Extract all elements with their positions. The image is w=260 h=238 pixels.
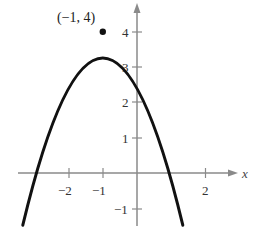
x-axis: x <box>18 166 248 181</box>
y-tick-label: 2 <box>122 95 129 110</box>
y-tick-labels: −1 1 2 3 4 <box>114 25 129 217</box>
x-axis-label: x <box>241 166 248 181</box>
parabola-curve <box>23 58 183 225</box>
x-axis-arrow-icon <box>228 170 238 177</box>
y-tick-label: 1 <box>122 131 129 146</box>
y-tick-label: −1 <box>114 202 128 217</box>
x-tick-label: −1 <box>92 183 106 198</box>
x-tick-label: −2 <box>58 183 72 198</box>
y-tick-label: 4 <box>122 25 129 40</box>
y-axis-arrow-icon <box>134 3 141 13</box>
vertex-annotation: (−1, 4) <box>57 10 96 26</box>
y-axis <box>134 3 141 226</box>
parabola-chart: x −2 −1 2 −1 1 2 3 4 (−1, 4) <box>0 0 260 238</box>
x-tick-labels: −2 −1 2 <box>58 183 209 198</box>
x-tick-label: 2 <box>202 183 209 198</box>
vertex-point <box>100 29 106 35</box>
